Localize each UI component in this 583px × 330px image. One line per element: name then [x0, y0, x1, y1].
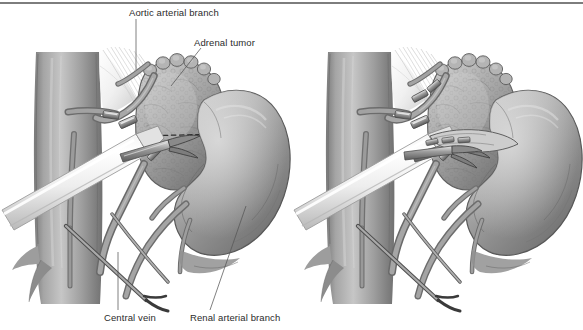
panel-left: [2, 19, 290, 311]
top-divider-rule: [0, 2, 583, 4]
label-central-vein: Central vein: [104, 312, 156, 323]
label-adrenal-tumor: Adrenal tumor: [194, 37, 255, 48]
label-renal-arterial-branch: Renal arterial branch: [190, 312, 280, 323]
label-aortic-arterial-branch: Aortic arterial branch: [129, 7, 219, 18]
figure-canvas: Aortic arterial branch Adrenal tumor Cen…: [0, 0, 583, 330]
panel-right: [294, 47, 582, 311]
illustration-svg: [0, 0, 583, 330]
